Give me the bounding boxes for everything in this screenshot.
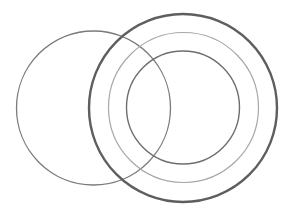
background [0, 0, 293, 215]
venn-circles-diagram [0, 0, 293, 215]
